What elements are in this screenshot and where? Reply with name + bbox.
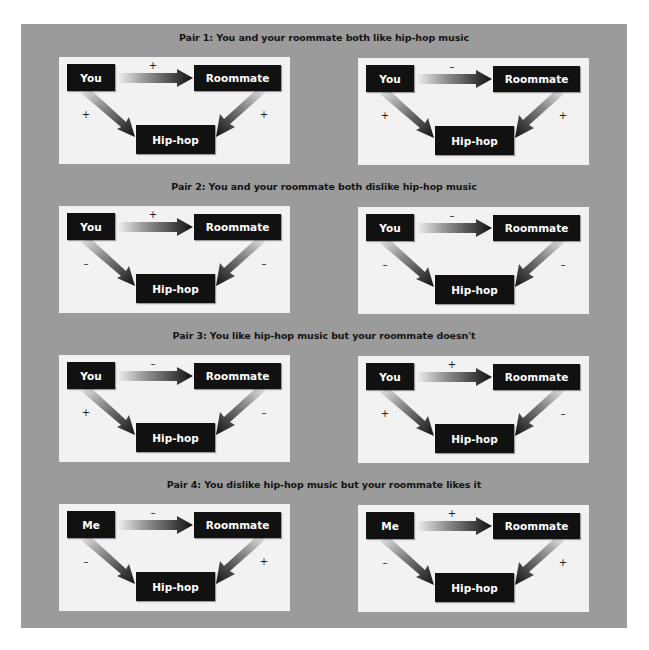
arrow-self-to-other	[416, 219, 492, 237]
sign-self-object: –	[80, 557, 92, 567]
node-hip-hop: Hip-hop	[435, 573, 514, 602]
node-roommate: Roommate	[194, 65, 281, 91]
node-roommate: Roommate	[194, 363, 281, 389]
node-hip-hop: Hip-hop	[136, 125, 215, 154]
node-roommate: Roommate	[493, 66, 580, 92]
node-roommate: Roommate	[493, 215, 580, 241]
sign-self-object: +	[379, 409, 391, 419]
pair-title: Pair 3: You like hip-hop music but your …	[21, 330, 627, 341]
sign-self-object: +	[80, 110, 92, 120]
node-hip-hop: Hip-hop	[136, 423, 215, 452]
arrow-self-to-other	[117, 69, 193, 87]
arrow-self-to-other	[416, 368, 492, 386]
sign-other-object: –	[557, 260, 569, 270]
arrow-self-to-other	[117, 516, 193, 534]
sign-other-object: +	[557, 111, 569, 121]
node-self: Me	[366, 512, 414, 539]
node-roommate: Roommate	[194, 214, 281, 240]
sign-self-other: +	[446, 509, 458, 519]
sign-self-other: +	[147, 61, 159, 71]
diagram-pair-3-right: + + – You Roommate Hip-hop	[358, 356, 589, 463]
node-self: Me	[67, 511, 115, 538]
sign-self-other: +	[147, 210, 159, 220]
pair-title: Pair 2: You and your roommate both disli…	[21, 181, 627, 192]
sign-self-object: +	[379, 111, 391, 121]
diagram-pair-1-left: + + + You Roommate Hip-hop	[59, 57, 290, 164]
diagram-pair-3-left: – + – You Roommate Hip-hop	[59, 355, 290, 462]
sign-self-object: –	[80, 259, 92, 269]
node-hip-hop: Hip-hop	[435, 275, 514, 304]
node-hip-hop: Hip-hop	[435, 126, 514, 155]
diagram-pair-4-left: – – + Me Roommate Hip-hop	[59, 504, 290, 611]
arrow-self-to-other	[117, 367, 193, 385]
sign-self-object: +	[80, 408, 92, 418]
node-hip-hop: Hip-hop	[435, 424, 514, 453]
sign-self-other: –	[446, 62, 458, 72]
node-self: You	[67, 64, 115, 91]
node-hip-hop: Hip-hop	[136, 572, 215, 601]
node-roommate: Roommate	[493, 364, 580, 390]
node-self: You	[366, 363, 414, 390]
sign-other-object: +	[258, 557, 270, 567]
sign-other-object: +	[557, 558, 569, 568]
sign-self-object: –	[379, 558, 391, 568]
sign-self-other: +	[446, 360, 458, 370]
pair-title: Pair 1: You and your roommate both like …	[21, 32, 627, 43]
arrow-self-to-other	[117, 218, 193, 236]
sign-self-other: –	[147, 508, 159, 518]
sign-self-other: –	[147, 359, 159, 369]
arrow-self-to-other	[416, 70, 492, 88]
sign-other-object: +	[258, 110, 270, 120]
arrow-self-to-other	[416, 517, 492, 535]
node-self: You	[67, 362, 115, 389]
node-self: You	[366, 65, 414, 92]
sign-self-object: –	[379, 260, 391, 270]
sign-other-object: –	[258, 259, 270, 269]
balance-theory-figure: Pair 1: You and your roommate both like …	[21, 24, 627, 628]
pair-title: Pair 4: You dislike hip-hop music but yo…	[21, 479, 627, 490]
diagram-pair-1-right: – + + You Roommate Hip-hop	[358, 58, 589, 165]
diagram-pair-2-right: – – – You Roommate Hip-hop	[358, 207, 589, 314]
node-self: You	[366, 214, 414, 241]
diagram-pair-4-right: + – + Me Roommate Hip-hop	[358, 505, 589, 612]
node-roommate: Roommate	[493, 513, 580, 539]
node-self: You	[67, 213, 115, 240]
node-hip-hop: Hip-hop	[136, 274, 215, 303]
sign-other-object: –	[258, 408, 270, 418]
node-roommate: Roommate	[194, 512, 281, 538]
sign-self-other: –	[446, 211, 458, 221]
sign-other-object: –	[557, 409, 569, 419]
diagram-pair-2-left: + – – You Roommate Hip-hop	[59, 206, 290, 313]
